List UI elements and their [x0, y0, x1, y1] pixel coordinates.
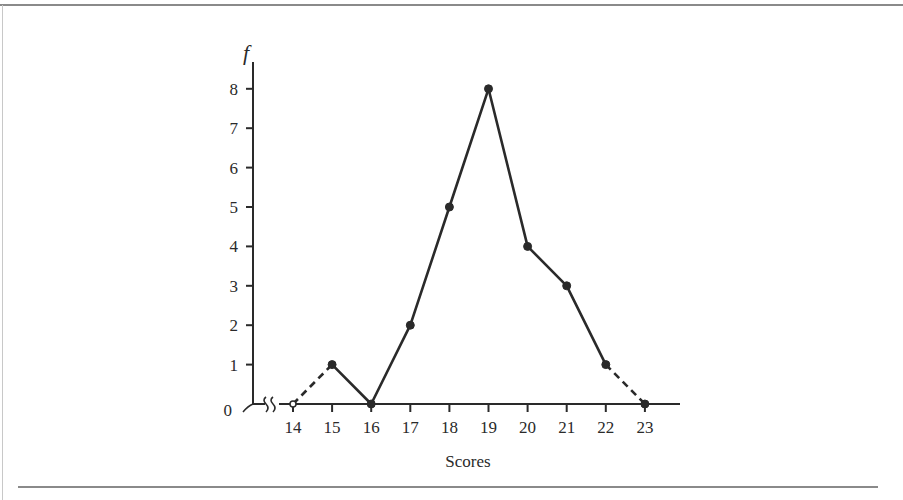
data-point-marker: [602, 361, 610, 369]
x-tick-label: 14: [285, 418, 303, 437]
frequency-polygon-chart: 012345678 14151617181920212223 f Scores: [0, 0, 903, 500]
x-tick-label: 17: [402, 418, 420, 437]
x-axis-title: Scores: [445, 452, 490, 471]
line-segment: [449, 89, 488, 207]
line-segment: [489, 89, 528, 247]
axis-break-icon: [264, 397, 275, 412]
y-ticks: 012345678: [224, 80, 254, 420]
dashed-line-segment: [606, 365, 645, 404]
origin-curl: [243, 404, 253, 412]
data-series: [290, 85, 649, 408]
y-tick-label: 8: [230, 80, 239, 99]
data-point-marker: [328, 361, 336, 369]
data-point-marker: [641, 400, 649, 408]
x-tick-label: 19: [480, 418, 497, 437]
x-tick-label: 23: [636, 418, 653, 437]
x-tick-label: 21: [558, 418, 575, 437]
x-tick-label: 18: [441, 418, 458, 437]
y-tick-label: 0: [224, 401, 233, 420]
x-tick-label: 16: [363, 418, 380, 437]
line-segment: [371, 325, 410, 404]
x-ticks: 14151617181920212223: [285, 404, 654, 437]
data-point-marker: [485, 85, 493, 93]
data-point-marker: [563, 282, 571, 290]
data-point-marker: [406, 321, 414, 329]
line-segment: [528, 246, 567, 285]
y-tick-label: 2: [230, 316, 239, 335]
dashed-line-segment: [293, 365, 332, 404]
y-tick-label: 1: [230, 356, 239, 375]
y-tick-label: 7: [230, 119, 239, 138]
data-point-marker: [445, 203, 453, 211]
y-tick-label: 4: [230, 237, 239, 256]
axes: [243, 62, 680, 412]
line-segment: [410, 207, 449, 325]
line-segment: [332, 365, 371, 404]
line-segment: [567, 286, 606, 365]
x-tick-label: 15: [324, 418, 341, 437]
y-tick-label: 6: [230, 159, 239, 178]
y-axis-symbol: f: [243, 40, 252, 65]
x-tick-label: 20: [519, 418, 536, 437]
data-point-marker: [367, 400, 375, 408]
y-tick-label: 5: [230, 198, 239, 217]
data-point-marker: [524, 242, 532, 250]
data-point-marker: [290, 401, 296, 407]
y-tick-label: 3: [230, 277, 239, 296]
x-tick-label: 22: [597, 418, 614, 437]
